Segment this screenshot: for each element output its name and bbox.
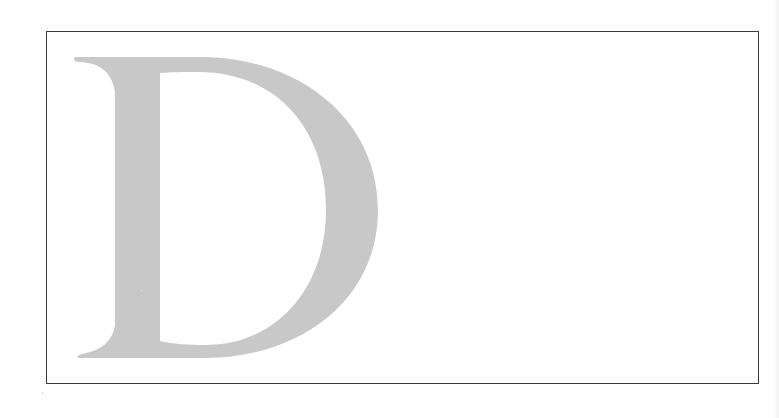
scan-speck bbox=[42, 392, 43, 393]
decorative-letter-d: D bbox=[0, 0, 779, 418]
scan-speck bbox=[141, 290, 142, 291]
page-edge-shadow bbox=[773, 0, 779, 418]
